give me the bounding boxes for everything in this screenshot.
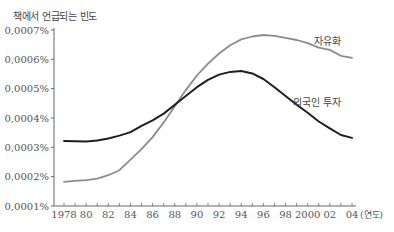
series-label: 자유화 (314, 36, 341, 47)
x-axis-title: (연도) (360, 210, 383, 220)
x-tick-label: 92 (213, 209, 226, 220)
x-tick-label: 94 (235, 209, 248, 220)
x-tick-label: 1978 (51, 209, 76, 220)
y-tick-label: 0,0007% (5, 25, 50, 36)
x-tick-label: 88 (168, 209, 181, 220)
x-tick-label: 82 (102, 209, 115, 220)
y-tick-label: 0,0001% (5, 201, 50, 212)
x-tick-label: 98 (279, 209, 292, 220)
x-tick-label: 80 (80, 209, 93, 220)
y-tick-label: 0,0002% (5, 171, 50, 182)
plot-area: 0,0001%0,0002%0,0003%0,0004%0,0005%0,000… (0, 0, 394, 232)
series-line-liberalization (64, 35, 352, 182)
x-tick-label: 02 (323, 209, 336, 220)
y-axis-title: 책에서 언급되는 빈도 (13, 8, 97, 23)
x-tick-label: 2000 (295, 209, 320, 220)
x-tick-label: 86 (146, 209, 159, 220)
x-tick-label: 84 (124, 209, 137, 220)
series-label: 외국인 투자 (293, 97, 341, 108)
y-tick-label: 0,0006% (5, 54, 50, 65)
x-tick-label: 90 (191, 209, 204, 220)
y-tick-label: 0,0005% (5, 83, 50, 94)
y-tick-label: 0,0003% (5, 142, 50, 153)
x-tick-label: 96 (257, 209, 270, 220)
x-tick-label: 04 (346, 209, 359, 220)
line-chart: 책에서 언급되는 빈도 0,0001%0,0002%0,0003%0,0004%… (0, 0, 394, 232)
y-tick-label: 0,0004% (5, 113, 50, 124)
